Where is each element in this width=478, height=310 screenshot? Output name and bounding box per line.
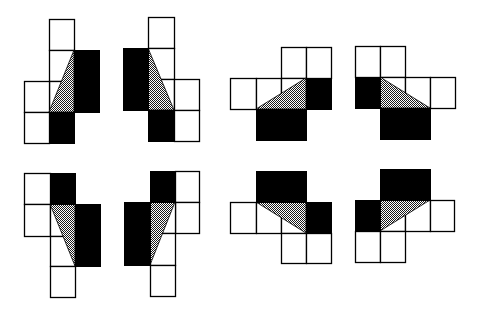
black-cell: [306, 78, 332, 110]
figure-4: [355, 47, 456, 141]
black-cell: [256, 109, 307, 141]
black-cell: [355, 77, 381, 109]
white-cell: [51, 267, 76, 298]
white-cell: [151, 266, 176, 297]
white-cell: [176, 172, 200, 203]
figure-3: [231, 48, 333, 142]
white-cell: [176, 203, 200, 234]
white-cell: [25, 82, 50, 113]
white-cell: [25, 113, 50, 144]
black-cell: [306, 202, 332, 234]
black-cell: [50, 173, 76, 205]
white-cell: [25, 174, 51, 205]
white-cell: [381, 232, 406, 263]
figure-2: [123, 18, 200, 143]
black-cell: [150, 171, 176, 203]
black-cell: [124, 202, 151, 266]
figures-layer: [25, 18, 456, 298]
figure-1: [25, 20, 101, 145]
black-cell: [380, 169, 431, 201]
figure-7: [231, 171, 333, 264]
black-cell: [148, 110, 175, 142]
black-cell: [49, 112, 75, 144]
figure-5: [25, 173, 102, 298]
white-cell: [307, 234, 332, 264]
white-cell: [282, 48, 307, 79]
white-cell: [356, 47, 381, 78]
black-cell: [355, 200, 381, 232]
white-cell: [175, 111, 200, 142]
white-cell: [231, 203, 257, 234]
white-cell: [431, 201, 455, 232]
white-cell: [431, 78, 456, 109]
black-cell: [75, 204, 101, 267]
black-cell: [123, 48, 149, 111]
white-cell: [282, 234, 307, 264]
black-cell: [380, 108, 431, 140]
figures-canvas: [0, 0, 478, 310]
white-cell: [50, 20, 75, 51]
white-cell: [356, 232, 381, 263]
white-cell: [175, 80, 200, 111]
black-cell: [256, 171, 307, 203]
white-cell: [307, 48, 332, 79]
white-cell: [149, 18, 175, 49]
figure-6: [124, 171, 200, 297]
figure-8: [355, 169, 455, 263]
white-cell: [25, 205, 51, 237]
white-cell: [381, 47, 406, 78]
white-cell: [231, 79, 257, 110]
black-cell: [74, 50, 100, 113]
